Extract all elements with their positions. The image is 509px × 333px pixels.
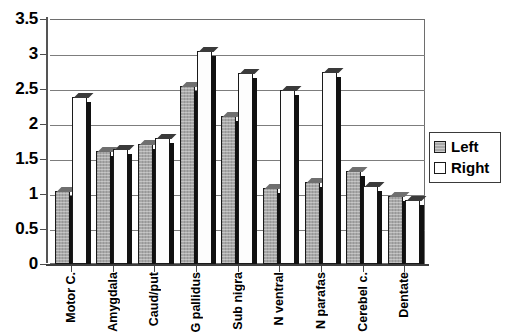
- legend-swatch-left-icon: [434, 141, 446, 153]
- bar-right: [72, 97, 87, 264]
- bar-left: [305, 182, 320, 264]
- bar-right: [113, 149, 128, 265]
- bar-right: [322, 72, 337, 265]
- y-axis-tick-label: 0: [29, 254, 38, 274]
- x-axis-label: Motor C.: [64, 272, 78, 323]
- y-axis-tick-label: 3: [29, 44, 38, 64]
- chart-legend: Left Right: [429, 132, 501, 183]
- legend-item-left[interactable]: Left: [434, 136, 496, 157]
- y-axis-tick-label: 3.5: [15, 9, 38, 29]
- legend-label-right: Right: [451, 160, 489, 175]
- x-axis-label: Cerebel c.: [356, 272, 370, 332]
- y-axis-spine: [46, 17, 48, 263]
- bar-right: [363, 186, 378, 264]
- bar-right: [197, 51, 212, 265]
- legend-item-right[interactable]: Right: [434, 157, 496, 178]
- y-axis-tick-label: 1: [29, 184, 38, 204]
- x-axis-label: N ventral: [272, 272, 286, 326]
- bar-group: [175, 19, 217, 264]
- bar-group: [300, 19, 342, 264]
- bars-layer: [50, 19, 425, 264]
- bar-left: [388, 196, 403, 264]
- bar-left: [346, 171, 361, 264]
- y-axis-tick-label: 1.5: [15, 149, 38, 169]
- x-axis-label: Sub nigra: [231, 272, 245, 330]
- x-axis-label: Dentate: [397, 272, 411, 318]
- legend-label-left: Left: [451, 139, 479, 154]
- y-axis: 00.511.522.533.5: [0, 0, 46, 275]
- bar-left: [263, 188, 278, 264]
- bar-group: [217, 19, 259, 264]
- bar-right: [238, 73, 253, 264]
- bar-left: [96, 151, 111, 264]
- bar-right: [280, 90, 295, 264]
- bar-right: [405, 200, 420, 264]
- bar-group: [342, 19, 384, 264]
- bar-group: [92, 19, 134, 264]
- bar-group: [50, 19, 92, 264]
- y-axis-tick-label: 2.5: [15, 79, 38, 99]
- bar-left: [180, 86, 195, 265]
- bar-left: [55, 191, 70, 265]
- bar-group: [133, 19, 175, 264]
- x-axis-label: Amygdala: [106, 272, 120, 332]
- bar-group: [383, 19, 425, 264]
- legend-swatch-right-icon: [434, 162, 446, 174]
- x-axis-label: Caud/put: [147, 272, 161, 326]
- bar-group: [258, 19, 300, 264]
- y-axis-tick-label: 0.5: [15, 219, 38, 239]
- bar-chart: 00.511.522.533.5 Left Right Motor C.Amyg…: [0, 0, 509, 333]
- bar-left: [138, 144, 153, 264]
- x-axis-label: N parafas: [314, 272, 328, 329]
- y-axis-tick-label: 2: [29, 114, 38, 134]
- bar-left: [221, 116, 236, 264]
- x-axis-label: G pallidus: [189, 272, 203, 332]
- bar-right: [155, 138, 170, 264]
